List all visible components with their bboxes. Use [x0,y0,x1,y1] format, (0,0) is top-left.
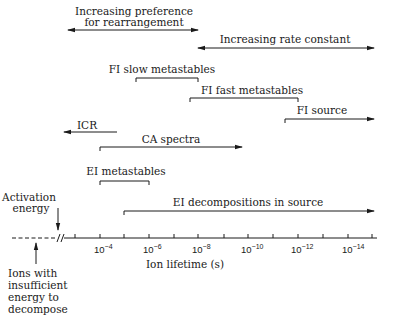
tick-label-1e-14: 10−14 [342,243,365,255]
fi-slow-bracket [136,78,198,82]
range-icr: ICR [64,119,117,132]
fi-source-arrow [285,119,374,123]
range-rate-constant: Increasing rate constant [198,33,374,48]
ions-label-1: Ions with [8,267,58,279]
tick-label-1e-8: 10−8 [192,243,211,255]
tick-label-1e-10: 10−10 [241,243,264,255]
range-ei-metastables: EI metastables [86,165,165,185]
x-axis-label: Ion lifetime (s) [146,258,224,270]
fi-fast-bracket [190,98,298,102]
ions-label-4: decompose [8,303,68,315]
range-ei-source: EI decompositions in source [124,196,374,215]
fi-slow-label: FI slow metastables [109,63,215,75]
ei-source-arrow [124,211,374,215]
axis-break-mark-2 [61,234,64,242]
axis-tick-labels: 10−4 10−6 10−8 10−10 10−12 10−14 [94,243,365,255]
tick-label-1e-4: 10−4 [94,243,113,255]
axis-ticks [75,234,372,238]
axis-break-mark-1 [57,234,60,242]
diagram-canvas: Increasing preference for rearrangement … [0,0,395,317]
ions-label-3: energy to [8,291,59,303]
range-ca-spectra: CA spectra [100,133,242,151]
icr-label: ICR [77,119,98,131]
lifetime-axis: 10−4 10−6 10−8 10−10 10−12 10−14 Ion lif… [12,234,377,270]
fi-source-label: FI source [297,104,347,116]
range-fi-slow: FI slow metastables [109,63,215,82]
activation-label-2: energy [13,202,50,214]
fi-fast-label: FI fast metastables [201,84,303,96]
tick-label-1e-12: 10−12 [291,243,314,255]
ca-arrow [100,147,242,151]
insufficient-energy-annotation: Ions with insufficient energy to decompo… [8,243,68,315]
rearrangement-label-2: for rearrangement [84,16,184,28]
ca-label: CA spectra [142,133,201,145]
range-fi-source: FI source [285,104,374,123]
ei-meta-label: EI metastables [86,165,165,177]
range-fi-fast: FI fast metastables [190,84,303,102]
rate-label: Increasing rate constant [220,33,351,45]
ei-meta-bracket [100,181,149,185]
tick-label-1e-6: 10−6 [143,243,162,255]
ei-source-label: EI decompositions in source [173,196,323,208]
range-rearrangement: Increasing preference for rearrangement [68,5,198,30]
ions-label-2: insufficient [8,279,68,291]
activation-energy-annotation: Activation energy [1,191,58,230]
lifetime-diagram: Increasing preference for rearrangement … [0,0,395,317]
